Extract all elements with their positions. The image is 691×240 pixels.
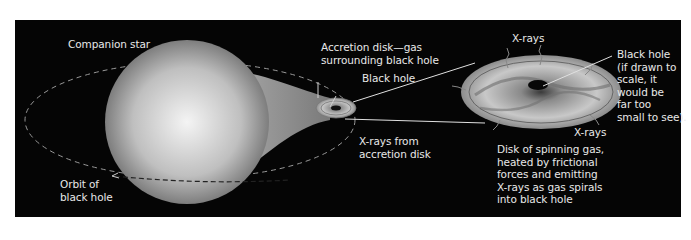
label-spinning-disk: Disk of spinning gas, heated by friction… [497, 143, 604, 206]
label-orbit-of-black-hole: Orbit of black hole [60, 178, 113, 203]
label-xrays-top: X-rays [512, 32, 544, 45]
label-xrays-right: X-rays [574, 126, 606, 139]
companion-star [105, 40, 269, 204]
label-companion-star: Companion star [68, 38, 150, 51]
label-black-hole-small: Black hole [362, 72, 415, 85]
label-xrays-from-disk: X-rays from accretion disk [359, 135, 431, 160]
large-accretion-disk [461, 55, 621, 129]
label-accretion-disk: Accretion disk—gas surrounding black hol… [321, 41, 439, 66]
label-black-hole-large: Black hole (if drawn to scale, it would … [617, 48, 687, 123]
